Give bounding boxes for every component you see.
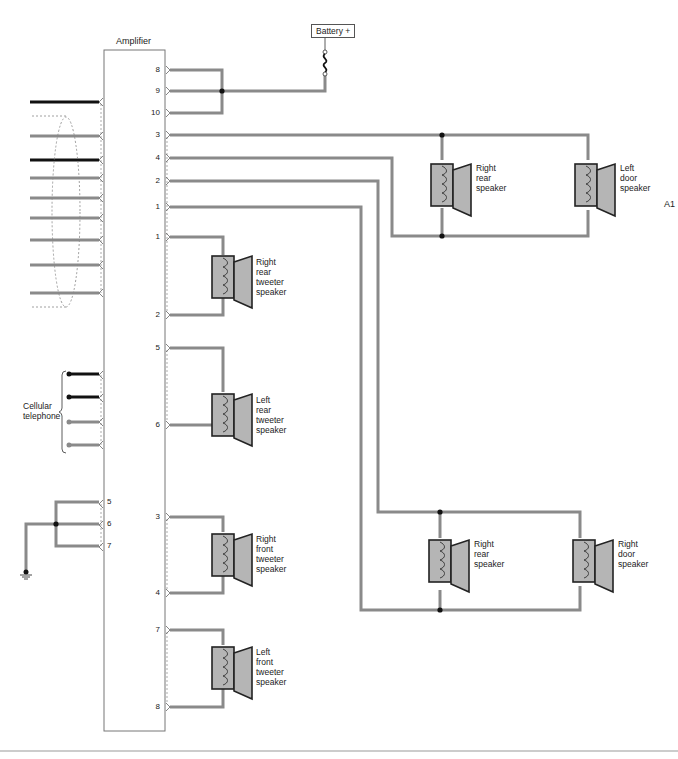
- pin-label: 4: [146, 153, 160, 162]
- pin-label: 1: [146, 202, 160, 211]
- pin-label: 3: [146, 512, 160, 521]
- speaker-label: Left front tweeter speaker: [256, 647, 286, 687]
- right-rear-speaker-lower-icon: [429, 540, 469, 592]
- speaker-label: Right rear speaker: [474, 539, 504, 569]
- right-front-tweeter-icon: [212, 534, 252, 586]
- left-front-tweeter-icon: [212, 647, 252, 699]
- speaker-label: Left rear tweeter speaker: [256, 395, 286, 435]
- left-rear-tweeter-icon: [212, 394, 252, 446]
- pin-label: 2: [146, 176, 160, 185]
- pin-label: 9: [146, 86, 160, 95]
- pin-label: 7: [146, 625, 160, 634]
- speaker-label: Left door speaker: [620, 163, 650, 193]
- amplifier-title: Amplifier: [116, 36, 151, 46]
- pin-label: 4: [146, 588, 160, 597]
- speaker-label: Right rear tweeter speaker: [256, 257, 286, 297]
- pin-label: 6: [146, 420, 160, 429]
- speaker-label: Right front tweeter speaker: [256, 534, 286, 574]
- pin-label: 2: [146, 310, 160, 319]
- speaker-label: Right door speaker: [618, 539, 648, 569]
- pin-label: 5: [107, 497, 111, 506]
- battery-label: Battery +: [311, 24, 355, 38]
- right-rear-speaker-upper-icon: [431, 164, 471, 216]
- right-door-speaker-icon: [573, 540, 613, 592]
- pin-label: 8: [146, 65, 160, 74]
- speaker-label: Right rear speaker: [476, 163, 506, 193]
- right-rear-tweeter-icon: [212, 256, 252, 308]
- left-door-speaker-icon: [575, 164, 615, 216]
- pin-label: 6: [107, 519, 111, 528]
- pin-label: 1: [146, 232, 160, 241]
- cellular-telephone-label: Cellular telephone: [23, 401, 60, 421]
- wiring-diagram: [0, 0, 678, 759]
- pin-label: 7: [107, 541, 111, 550]
- diagram-id: A1: [664, 199, 675, 209]
- pin-label: 5: [146, 343, 160, 352]
- pin-label: 8: [146, 702, 160, 711]
- pin-label: 10: [146, 108, 160, 117]
- pin-label: 3: [146, 130, 160, 139]
